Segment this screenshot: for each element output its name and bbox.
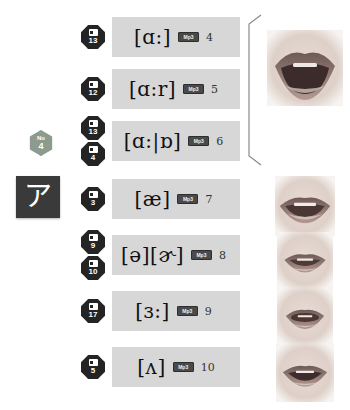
video-badge[interactable]: 4 xyxy=(81,142,105,166)
video-badge-stack: 5 xyxy=(80,344,106,390)
phonetic-panel[interactable]: [ɑ:]Mp34 xyxy=(112,17,240,57)
video-badge[interactable]: 12 xyxy=(81,77,105,101)
phonetic-panel[interactable]: [ə][ɚ]Mp38 xyxy=(112,235,240,275)
video-badge-stack: 13 xyxy=(80,14,106,60)
phonetic-symbol: [æ] xyxy=(135,187,171,211)
video-badge-number: 4 xyxy=(91,154,95,162)
video-badge-stack: 910 xyxy=(80,232,106,278)
video-badge-number: 3 xyxy=(91,199,95,207)
video-badge-stack: 3 xyxy=(80,176,106,222)
video-badge-stack: 17 xyxy=(80,288,106,334)
audio-play-button[interactable]: Mp3 xyxy=(177,306,198,316)
phonetic-panel[interactable]: [ʌ]Mp310 xyxy=(112,347,240,387)
audio-play-button[interactable]: Mp3 xyxy=(183,84,204,94)
phonetic-panel[interactable]: [ɑ:r]Mp35 xyxy=(112,69,240,109)
video-badge[interactable]: 13 xyxy=(81,25,105,49)
audio-play-button[interactable]: Mp3 xyxy=(173,362,194,372)
pronunciation-chart-page: No 4 ア 13[ɑ:]Mp3412[ɑ:r]Mp35134[ɑ:|ɒ]Mp3… xyxy=(0,0,350,410)
item-number: 6 xyxy=(216,135,228,148)
video-badge[interactable]: 3 xyxy=(81,187,105,211)
audio-play-button[interactable]: Mp3 xyxy=(188,136,209,146)
mouth-shape-photo xyxy=(267,288,343,344)
video-badge-number: 17 xyxy=(89,311,98,319)
video-badge-icon xyxy=(89,303,98,310)
video-badge[interactable]: 5 xyxy=(81,355,105,379)
phonetic-symbol: [ɑ:|ɒ] xyxy=(124,129,182,153)
phonetic-symbol: [ə][ɚ] xyxy=(121,243,184,267)
mouth-shape-photo xyxy=(267,344,343,402)
phonetic-symbol: [ɑ:r] xyxy=(129,77,176,101)
item-number: 5 xyxy=(211,83,223,96)
video-badge-icon xyxy=(89,359,98,366)
phonetic-symbol: [ɑ:] xyxy=(134,25,171,49)
item-number: 10 xyxy=(201,361,215,374)
video-badge-icon xyxy=(89,191,98,198)
audio-play-button[interactable]: Mp3 xyxy=(178,32,199,42)
video-badge[interactable]: 10 xyxy=(81,256,105,280)
phonetic-panel[interactable]: [æ]Mp37 xyxy=(112,179,240,219)
video-badge-icon xyxy=(89,260,98,267)
mouth-shape-photo xyxy=(267,12,343,124)
video-badge-number: 10 xyxy=(89,268,98,276)
audio-play-button[interactable]: Mp3 xyxy=(177,194,198,204)
video-badge-icon xyxy=(89,81,98,88)
phonetic-panel[interactable]: [ɜ:]Mp39 xyxy=(112,291,240,331)
video-badge-number: 13 xyxy=(89,128,98,136)
mouth-shape-photo xyxy=(267,176,343,236)
video-badge-number: 13 xyxy=(89,37,98,45)
video-badge[interactable]: 9 xyxy=(81,230,105,254)
mouth-shape-photo xyxy=(267,232,343,288)
video-badge-icon xyxy=(89,29,98,36)
video-badge-icon xyxy=(89,146,98,153)
video-badge[interactable]: 17 xyxy=(81,299,105,323)
video-badge-stack: 12 xyxy=(80,66,106,112)
video-badge-icon xyxy=(89,234,98,241)
video-badge-number: 5 xyxy=(91,367,95,375)
pronunciation-row: 134[ɑ:|ɒ]Mp36 xyxy=(0,118,350,164)
phonetic-panel[interactable]: [ɑ:|ɒ]Mp36 xyxy=(112,121,240,161)
video-badge-number: 9 xyxy=(91,242,95,250)
video-badge-stack: 134 xyxy=(80,118,106,164)
item-number: 9 xyxy=(205,305,217,318)
item-number: 4 xyxy=(206,31,218,44)
phonetic-symbol: [ʌ] xyxy=(137,355,165,379)
video-badge[interactable]: 13 xyxy=(81,116,105,140)
video-badge-number: 12 xyxy=(89,89,98,97)
video-badge-icon xyxy=(89,120,98,127)
audio-play-button[interactable]: Mp3 xyxy=(191,250,212,260)
item-number: 8 xyxy=(219,249,231,262)
phonetic-symbol: [ɜ:] xyxy=(135,299,170,323)
item-number: 7 xyxy=(205,193,217,206)
